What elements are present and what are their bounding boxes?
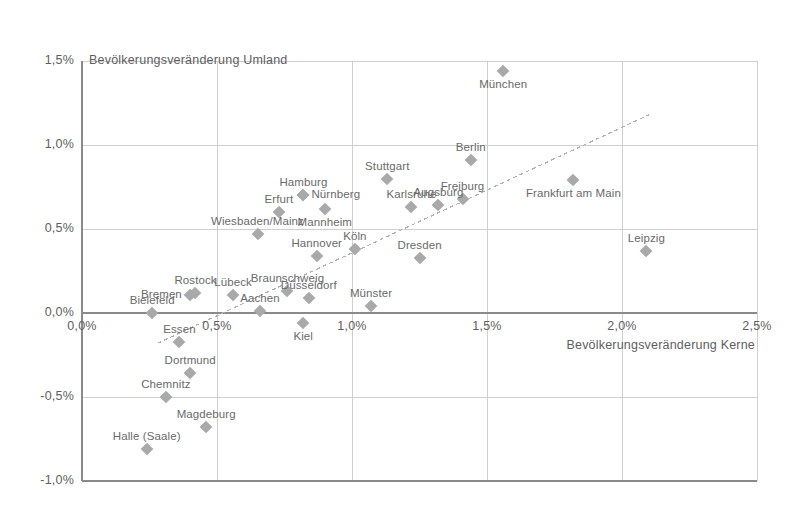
data-point-label: Berlin [456,142,486,154]
data-point-label: Leipzig [628,233,665,245]
data-point-label: Dresden [398,240,442,252]
data-point-label: Lübeck [214,277,252,289]
scatter-chart: 1,5%1,0%0,5%0,0%-0,5%-1,0% 0,0%0,5%1,0%1… [0,0,800,532]
y-tick-label: 1,0% [45,137,74,151]
data-point-label: Halle (Saale) [113,431,181,443]
data-point-label: Aachen [240,293,280,305]
y-tick-label: -0,5% [40,389,74,403]
x-axis-title: Bevölkerungsveränderung Kerne [566,338,755,352]
y-tick-label: 1,5% [45,53,74,67]
data-point-label: Bielefeld [130,295,175,307]
x-tick-label: 0,0% [67,319,96,333]
y-tick-label: -1,0% [40,473,74,487]
data-point-label: Hamburg [279,177,327,189]
data-point-label: Münster [350,288,392,300]
plot-canvas [0,0,800,532]
data-point-label: Frankfurt am Main [526,188,621,200]
data-point-label: Chemnitz [141,379,190,391]
data-point-label: Nürnberg [311,189,360,201]
data-point-label: Köln [343,231,366,243]
data-point-label: Hannover [291,238,342,250]
data-point-label: Rostock [174,275,216,287]
data-point-label: Erfurt [265,194,294,206]
data-point-label: Wiesbaden/Mainz [211,216,304,228]
data-point-label: Stuttgart [365,161,409,173]
data-point-label: Kiel [293,331,313,343]
data-point-label: Düsseldorf [281,280,337,292]
x-tick-label: 0,5% [202,319,231,333]
x-tick-label: 1,5% [472,319,501,333]
data-point-label: Magdeburg [177,409,236,421]
data-point-label: Mannheim [298,217,353,229]
y-tick-label: 0,5% [45,221,74,235]
data-point-label: Karlsruhe [386,189,436,201]
x-tick-label: 2,0% [607,319,636,333]
y-axis-title: Bevölkerungsveränderung Umland [89,53,287,67]
y-tick-label: 0,0% [45,305,74,319]
x-tick-label: 1,0% [337,319,366,333]
data-point-label: Dortmund [165,355,216,367]
x-tick-label: 2,5% [742,319,771,333]
data-point-label: Essen [163,324,195,336]
data-point-label: München [479,79,527,91]
